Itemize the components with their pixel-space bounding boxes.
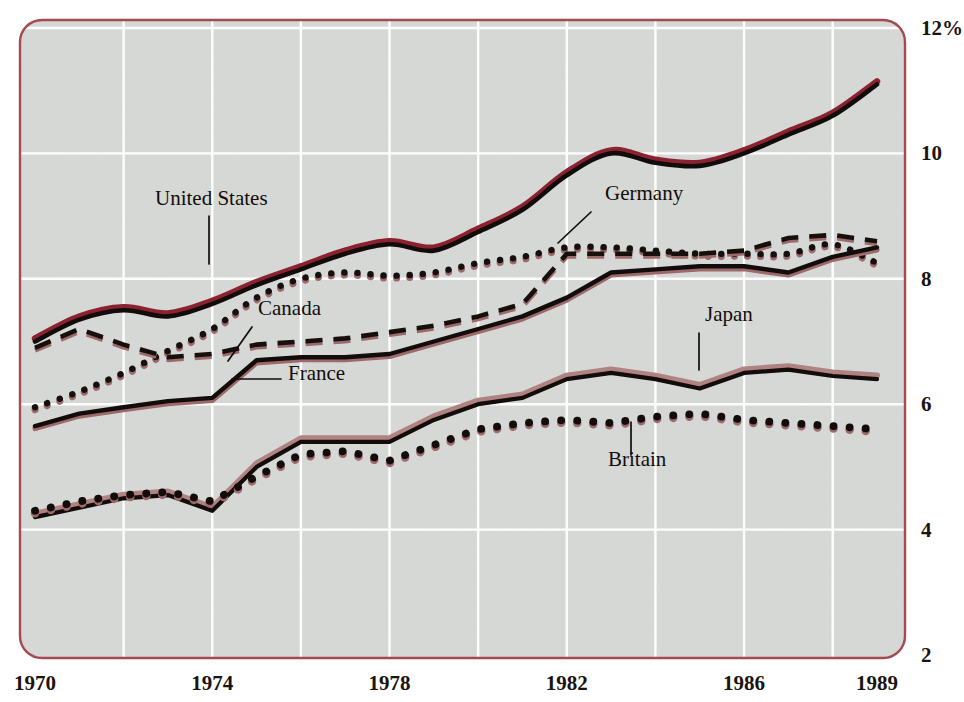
x-tick-label-1989: 1989 [856,671,898,695]
x-tick-label-1978: 1978 [369,671,411,695]
y-tick-label-2: 2 [921,643,932,667]
series-label-united-states: United States [155,186,268,210]
y-tick-label-12pct: 12% [921,16,963,40]
x-tick-label-1970: 1970 [14,671,56,695]
y-tick-label-8: 8 [921,267,932,291]
unemployment-rate-line-chart: United StatesCanadaGermanyFranceJapanBri… [0,0,964,702]
series-label-britain: Britain [608,447,667,471]
plot-panel [20,20,905,658]
y-tick-label-6: 6 [921,392,932,416]
paper-texture [20,20,905,658]
series-label-japan: Japan [705,302,753,326]
x-tick-label-1974: 1974 [191,671,234,695]
x-tick-label-1982: 1982 [546,671,588,695]
y-tick-label-4: 4 [921,518,932,542]
series-label-france: France [288,361,345,385]
series-label-canada: Canada [258,296,322,320]
chart-figure: United StatesCanadaGermanyFranceJapanBri… [0,0,964,702]
x-tick-label-1986: 1986 [723,671,765,695]
y-tick-label-10: 10 [921,141,942,165]
series-label-germany: Germany [605,181,684,205]
